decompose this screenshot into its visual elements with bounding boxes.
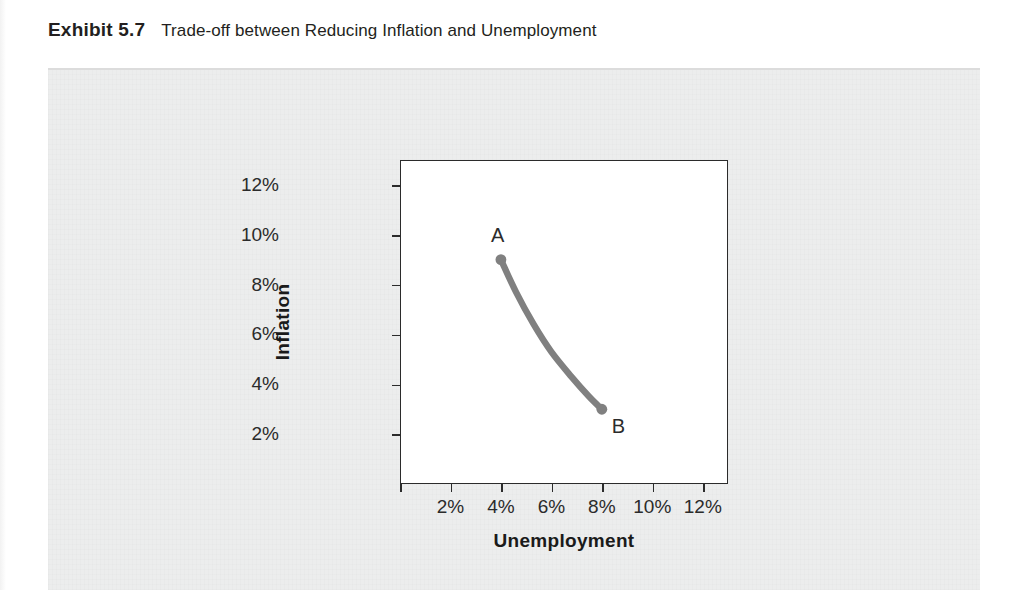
y-axis-title: Inflation — [272, 284, 294, 361]
y-axis-tick — [392, 235, 401, 237]
x-axis-tick — [552, 483, 554, 492]
y-axis-tick — [392, 335, 401, 337]
y-axis-tick — [392, 434, 401, 436]
x-axis-tick — [653, 483, 655, 492]
y-axis-tick-label: 2% — [209, 423, 279, 445]
exhibit-caption: Exhibit 5.7Trade-off between Reducing In… — [48, 19, 597, 41]
y-axis-tick — [392, 185, 401, 187]
plot-area — [400, 160, 728, 484]
data-point-label-a: A — [491, 224, 504, 247]
x-axis-tick — [602, 483, 604, 492]
x-axis-title: Unemployment — [494, 530, 635, 552]
x-axis-tick-label: 8% — [588, 496, 615, 518]
x-axis-tick — [451, 483, 453, 492]
y-axis-tick — [392, 285, 401, 287]
data-point-label-b: B — [612, 415, 625, 438]
y-axis-tick-label: 4% — [209, 373, 279, 395]
x-axis-tick — [703, 483, 705, 492]
y-axis-tick — [392, 385, 401, 387]
y-axis-tick-label: 10% — [209, 224, 279, 246]
x-axis-tick-label: 4% — [487, 496, 514, 518]
exhibit-number: Exhibit 5.7 — [48, 19, 145, 40]
panel-top-rule — [48, 68, 980, 70]
y-axis-tick-label: 8% — [209, 274, 279, 296]
y-axis-tick-label: 6% — [209, 323, 279, 345]
scanned-page: Exhibit 5.7Trade-off between Reducing In… — [0, 0, 1019, 590]
x-axis-tick — [501, 483, 503, 492]
x-axis-tick-label: 6% — [538, 496, 565, 518]
scan-edge-artifact — [0, 0, 6, 590]
x-axis-tick-label: 12% — [684, 496, 722, 518]
x-axis-tick-label: 10% — [633, 496, 671, 518]
y-axis-tick-label: 12% — [209, 174, 279, 196]
exhibit-title: Trade-off between Reducing Inflation and… — [161, 21, 596, 40]
x-axis-tick-label: 2% — [437, 496, 464, 518]
x-axis-tick — [400, 483, 402, 492]
